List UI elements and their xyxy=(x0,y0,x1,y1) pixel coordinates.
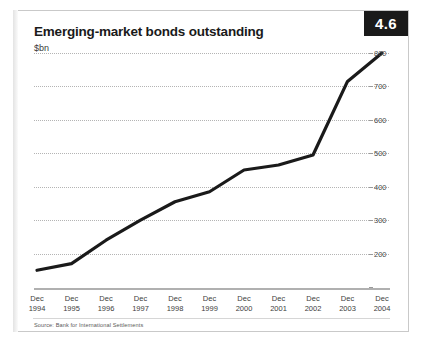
x-axis-tick-label-line: Dec xyxy=(132,294,149,304)
y-axis-tick-label: 700 xyxy=(374,82,387,91)
x-axis-tick-label-line: 1996 xyxy=(98,304,115,314)
plot-area xyxy=(34,53,389,287)
y-axis-tick-label: 300 xyxy=(374,216,387,225)
x-axis-tick-labels: Dec1994Dec1995Dec1996Dec1997Dec1998Dec19… xyxy=(34,294,390,320)
source-divider xyxy=(33,318,390,319)
x-axis-tick-label-line: 2002 xyxy=(305,304,322,314)
x-axis-tick-label-line: 2001 xyxy=(270,304,287,314)
x-axis-tick-label-line: 1999 xyxy=(201,304,218,314)
y-axis-tick-label: 500 xyxy=(374,149,387,158)
panel-edge-shade xyxy=(13,10,18,332)
y-axis-tick-mark xyxy=(369,254,373,255)
x-axis-tick-label-line: Dec xyxy=(236,294,253,304)
x-axis-tick-label: Dec2001 xyxy=(270,294,287,314)
y-axis-tick-mark xyxy=(369,120,373,121)
series-line-emerging-market-bonds xyxy=(37,53,382,270)
y-axis-tick-label: 800 xyxy=(374,49,387,58)
x-axis-tick-label: Dec1996 xyxy=(98,294,115,314)
x-axis-tick-label-line: Dec xyxy=(270,294,287,304)
y-axis-tick-label: 200 xyxy=(374,249,387,258)
x-axis-line xyxy=(34,288,390,290)
x-axis-tick-label: Dec1999 xyxy=(201,294,218,314)
chart-subtitle: $bn xyxy=(34,43,49,53)
x-axis-tick-label: Dec2002 xyxy=(305,294,322,314)
y-axis-tick-mark xyxy=(369,53,373,54)
x-axis-tick-label: Dec2003 xyxy=(339,294,356,314)
x-axis-tick-label-line: Dec xyxy=(167,294,184,304)
x-axis-tick-label: Dec1995 xyxy=(63,294,80,314)
x-axis-tick-label: Dec2000 xyxy=(236,294,253,314)
x-axis-tick-label: Dec1998 xyxy=(167,294,184,314)
x-axis-tick-label-line: Dec xyxy=(201,294,218,304)
y-axis-tick-mark xyxy=(369,187,373,188)
data-line-svg xyxy=(34,53,389,287)
x-axis-tick-label: Dec2004 xyxy=(374,294,391,314)
y-axis-tick-mark xyxy=(369,220,373,221)
x-axis-tick-label-line: Dec xyxy=(29,294,46,304)
page-title: Emerging-market bonds outstanding xyxy=(34,24,264,39)
x-axis-tick-label: Dec1997 xyxy=(132,294,149,314)
figure-frame: 4.6 Emerging-market bonds outstanding $b… xyxy=(13,10,409,332)
x-axis-tick-label-line: 1997 xyxy=(132,304,149,314)
y-axis-tick-label: 600 xyxy=(374,115,387,124)
x-axis-tick-label-line: Dec xyxy=(374,294,391,304)
x-axis-tick-label-line: Dec xyxy=(305,294,322,304)
x-axis-tick-label-line: Dec xyxy=(339,294,356,304)
y-axis-tick-mark xyxy=(369,86,373,87)
x-axis-tick-label-line: 2000 xyxy=(236,304,253,314)
x-axis-tick-label-line: 1995 xyxy=(63,304,80,314)
y-axis-tick-label: 400 xyxy=(374,182,387,191)
x-axis-tick-label-line: Dec xyxy=(63,294,80,304)
source-note: Source: Bank for International Settlemen… xyxy=(34,322,143,328)
x-axis-tick-label-line: 2003 xyxy=(339,304,356,314)
x-axis-tick-label-line: 1998 xyxy=(167,304,184,314)
x-axis-tick-label-line: 1994 xyxy=(29,304,46,314)
x-axis-tick-label-line: 2004 xyxy=(374,304,391,314)
x-axis-tick-label-line: Dec xyxy=(98,294,115,304)
x-axis-tick-label: Dec1994 xyxy=(29,294,46,314)
figure-number-badge: 4.6 xyxy=(364,11,408,36)
y-axis-tick-mark xyxy=(369,153,373,154)
